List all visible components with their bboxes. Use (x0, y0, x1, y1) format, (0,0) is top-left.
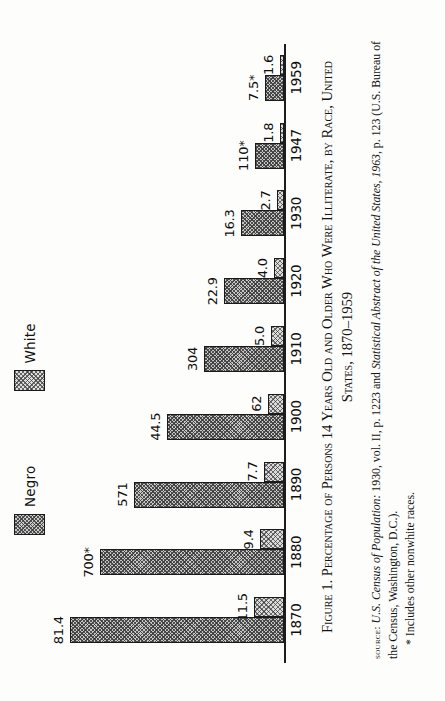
bar-value-label-white-1930: 2.7 (258, 190, 273, 210)
bar-negro-1959: 7.5* (265, 75, 285, 101)
bar-white-1930: 2.7 (277, 190, 284, 210)
x-tick-1900: 1900 (288, 400, 304, 433)
bar-value-label-negro-1959: 7.5* (246, 75, 261, 101)
bar-group-1870: 81.411.5 (70, 597, 285, 643)
bar-value-label-white-1890: 7.7 (245, 462, 260, 482)
bar-value-label-negro-1870: 81.4 (51, 616, 66, 644)
figure-caption: Figure 1. Percentage of Persons 14 Years… (318, 27, 358, 667)
source-title-2: Statistical Abstract of the United State… (369, 151, 383, 369)
bar-value-label-negro-1890: 571 (115, 482, 130, 506)
bar-white-1870: 11.5 (254, 597, 284, 617)
bar-group-1947: 110*1.8 (255, 123, 284, 169)
legend-label-negro: Negro (22, 466, 38, 508)
source-title-1: U.S. Census of Population: (369, 495, 383, 624)
bar-negro-1900: 44.5 (167, 414, 284, 440)
bar-negro-1930: 16.3 (241, 210, 284, 236)
bar-value-label-white-1947: 1.8 (261, 123, 276, 143)
bar-value-label-white-1920: 4.0 (255, 258, 270, 278)
bar-group-1959: 7.5*1.6 (265, 55, 285, 101)
bar-value-label-white-1959: 1.6 (261, 55, 276, 75)
bar-white-1947: 1.8 (280, 123, 285, 143)
x-tick-1870: 1870 (288, 604, 304, 637)
bar-group-1890: 5717.7 (134, 462, 284, 508)
source-detail-1: 1930, vol. II, p. 1223 and (369, 369, 383, 495)
bar-value-label-negro-1947: 110* (236, 140, 251, 171)
legend-swatch-negro-icon (14, 514, 45, 535)
legend-item-white: White (14, 323, 45, 391)
x-tick-1880: 1880 (288, 536, 304, 569)
bar-negro-1870: 81.4 (70, 617, 285, 643)
bar-group-1900: 44.562 (167, 394, 284, 440)
bar-value-label-white-1900: 62 (249, 396, 264, 412)
bar-negro-1920: 22.9 (224, 278, 284, 304)
caption-label: Figure 1. (319, 580, 335, 633)
bar-value-label-white-1870: 11.5 (235, 593, 250, 621)
bar-group-1930: 16.32.7 (241, 190, 284, 236)
source-label: source: (371, 626, 382, 659)
bar-value-label-negro-1930: 16.3 (222, 209, 237, 237)
legend-item-negro: Negro (14, 466, 45, 536)
bar-value-label-white-1910: 5.0 (252, 326, 267, 346)
rotated-figure-frame: Negro White 81.411.5700*9.45717.744.5623… (0, 0, 445, 701)
bar-white-1910: 5.0 (271, 326, 284, 346)
x-axis-baseline (284, 44, 286, 654)
bar-white-1880: 9.4 (260, 529, 285, 549)
bar-white-1920: 4.0 (274, 258, 285, 278)
bar-group-1910: 3045.0 (204, 326, 284, 372)
chart-legend: Negro White (14, 323, 45, 535)
source-footnote: * Includes other nonwhite races. (402, 31, 419, 645)
bar-value-label-negro-1900: 44.5 (148, 413, 163, 441)
caption-second-line: States, 1870–1959 (338, 27, 357, 667)
legend-label-white: White (22, 323, 38, 363)
axis-left-tip (284, 654, 286, 663)
x-tick-1910: 1910 (288, 332, 304, 365)
bar-group-1880: 700*9.4 (100, 529, 284, 575)
bar-white-1900: 62 (268, 394, 284, 414)
figure-source-note: source: U.S. Census of Population: 1930,… (368, 31, 418, 659)
bar-negro-1947: 110* (255, 143, 284, 169)
bar-negro-1890: 571 (134, 482, 284, 508)
x-tick-1890: 1890 (288, 468, 304, 501)
bar-value-label-negro-1910: 304 (185, 347, 200, 371)
bar-white-1959: 1.6 (280, 55, 284, 75)
x-tick-1930: 1930 (288, 197, 304, 230)
caption-main-text: Percentage of Persons 14 Years Old and O… (319, 61, 335, 576)
bar-group-1920: 22.94.0 (224, 258, 284, 304)
x-tick-1959: 1959 (288, 61, 304, 94)
bar-value-label-white-1880: 9.4 (241, 529, 256, 549)
bar-negro-1880: 700* (100, 549, 284, 575)
figure-page: Negro White 81.411.5700*9.45717.744.5623… (0, 0, 445, 701)
x-tick-1920: 1920 (288, 265, 304, 298)
plot-area: 81.411.5700*9.45717.744.5623045.022.94.0… (62, 44, 286, 654)
bar-negro-1910: 304 (204, 346, 284, 372)
bar-white-1890: 7.7 (264, 462, 284, 482)
bar-value-label-negro-1920: 22.9 (205, 277, 220, 305)
legend-swatch-white-icon (14, 371, 45, 392)
bar-value-label-negro-1880: 700* (81, 547, 96, 578)
x-tick-1947: 1947 (288, 129, 304, 162)
